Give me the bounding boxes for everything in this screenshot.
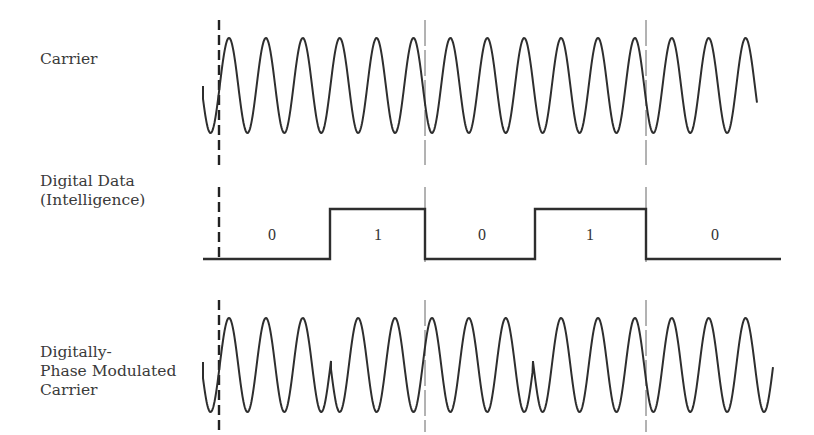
bit-value-label: 0 [268, 226, 276, 244]
phase-modulation-diagram [0, 0, 814, 435]
bit-value-label: 1 [586, 226, 594, 244]
carrier-waveform [203, 38, 757, 133]
bit-value-label: 0 [711, 226, 719, 244]
modulated-carrier-waveform [203, 318, 773, 412]
bit-value-label: 0 [478, 226, 486, 244]
digital-data-waveform [203, 209, 781, 259]
bit-value-label: 1 [374, 226, 382, 244]
bit-boundary-lines [219, 20, 646, 432]
